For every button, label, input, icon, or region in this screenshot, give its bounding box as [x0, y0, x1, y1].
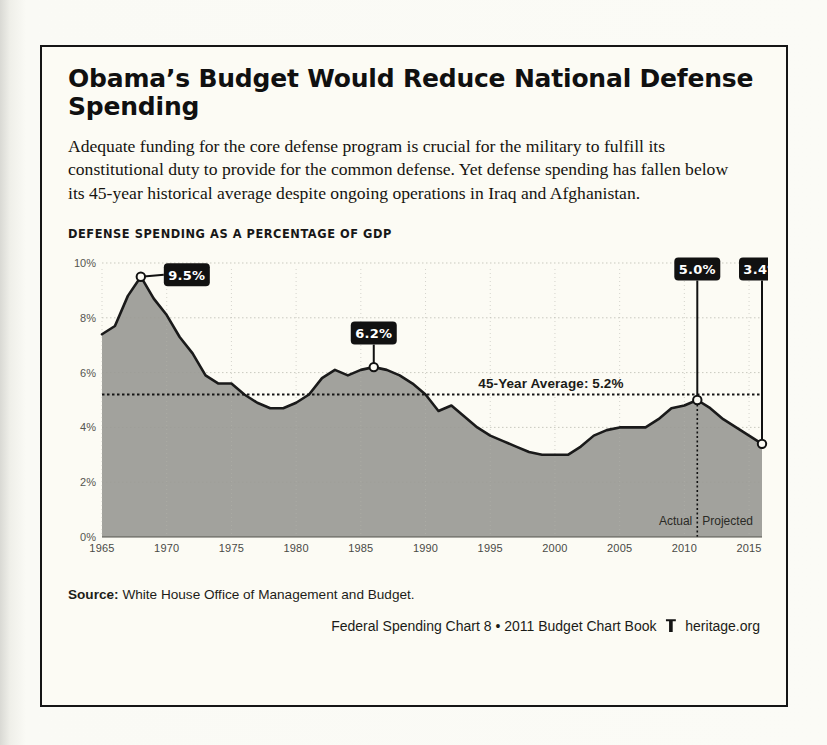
source-text: White House Office of Management and Bud…: [122, 587, 414, 602]
source-label: Source:: [68, 587, 119, 602]
data-point-marker: [370, 363, 378, 371]
y-axis-tick-label: 10%: [74, 257, 96, 269]
y-axis-tick-label: 6%: [80, 367, 96, 379]
callout-badge-label: 3.4%: [743, 262, 768, 277]
footer-line: Federal Spending Chart 8 • 2011 Budget C…: [68, 618, 764, 634]
peak-callout: 9.5%: [137, 263, 210, 286]
page-title: Obama’s Budget Would Reduce National Def…: [68, 65, 764, 121]
chart-subtitle: DEFENSE SPENDING AS A PERCENTAGE OF GDP: [68, 227, 764, 241]
screenshot-page: Obama’s Budget Would Reduce National Def…: [0, 0, 827, 745]
x-axis-tick-label: 1975: [219, 542, 244, 554]
x-axis-tick-label: 1980: [283, 542, 308, 554]
x-axis-tick-label: 1965: [89, 542, 114, 554]
x-axis-tick-label: 2005: [607, 542, 632, 554]
description-text: Adequate funding for the core defense pr…: [68, 135, 740, 205]
data-point-marker: [758, 440, 766, 448]
projected-callout: 3.4%: [739, 258, 768, 449]
callout-badge-label: 6.2%: [355, 326, 392, 341]
x-axis-tick-label: 1995: [478, 542, 503, 554]
x-axis-tick-label: 1970: [154, 542, 179, 554]
divider-label-projected: Projected: [702, 514, 753, 528]
footer-site-text: heritage.org: [685, 618, 760, 634]
actual-callout: 5.0%: [674, 258, 720, 405]
divider-label-actual: Actual: [659, 514, 692, 528]
y-axis-tick-label: 2%: [80, 476, 96, 488]
x-axis-tick-label: 2010: [672, 542, 697, 554]
defense-spending-area-chart: 0%2%4%6%8%10%45-Year Average: 5.2%Actual…: [68, 247, 768, 577]
average-line-label: 45-Year Average: 5.2%: [478, 376, 623, 391]
x-axis-tick-label: 2015: [736, 542, 761, 554]
reagan-callout: 6.2%: [351, 322, 397, 372]
chart-card: Obama’s Budget Would Reduce National Def…: [40, 45, 788, 707]
chart-area: 0%2%4%6%8%10%45-Year Average: 5.2%Actual…: [68, 247, 768, 577]
x-axis-tick-label: 2000: [542, 542, 567, 554]
x-axis-tick-label: 1985: [348, 542, 373, 554]
data-point-marker: [693, 396, 701, 404]
callout-badge-label: 5.0%: [679, 262, 716, 277]
x-axis-tick-label: 1990: [413, 542, 438, 554]
heritage-logo-icon: [664, 619, 677, 632]
source-line: Source: White House Office of Management…: [68, 587, 764, 602]
area-fill: [102, 277, 762, 537]
y-axis-tick-label: 8%: [80, 312, 96, 324]
callout-badge-label: 9.5%: [168, 268, 205, 283]
y-axis-tick-label: 4%: [80, 422, 96, 434]
footer-left-text: Federal Spending Chart 8 • 2011 Budget C…: [331, 618, 656, 634]
data-point-marker: [137, 273, 145, 281]
